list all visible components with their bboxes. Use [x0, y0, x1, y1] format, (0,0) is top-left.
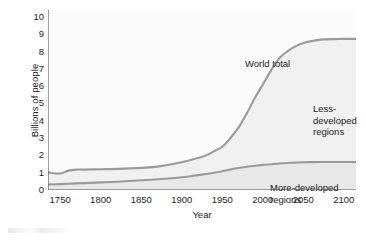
x-tick-label: 2000 — [243, 194, 283, 205]
plot-area: World total Less-developed regions More-… — [48, 10, 356, 190]
y-tick-label: 0 — [26, 185, 44, 194]
population-projection-chart: Billions of people 012345678910 World to… — [0, 0, 366, 240]
x-tick-label: 1850 — [121, 194, 161, 205]
y-tick-label: 7 — [26, 64, 44, 73]
x-axis-tick-labels: 17501800185019001950200020502100 — [48, 194, 356, 208]
x-axis-title: Year — [48, 209, 356, 220]
y-tick-label: 10 — [26, 12, 44, 21]
x-tick-label: 2050 — [283, 194, 323, 205]
x-tick-label: 1900 — [162, 194, 202, 205]
chart-svg — [48, 10, 356, 190]
y-tick-label: 6 — [26, 81, 44, 90]
scan-artifact — [8, 228, 70, 233]
x-tick-label: 1800 — [81, 194, 121, 205]
y-tick-label: 4 — [26, 116, 44, 125]
x-tick-label: 2100 — [324, 194, 364, 205]
y-tick-label: 2 — [26, 150, 44, 159]
x-tick-label: 1750 — [40, 194, 80, 205]
x-tick-label: 1950 — [202, 194, 242, 205]
y-tick-label: 3 — [26, 133, 44, 142]
y-tick-label: 8 — [26, 47, 44, 56]
annotation-world-total: World total — [245, 58, 290, 70]
y-tick-label: 9 — [26, 29, 44, 38]
annotation-less-developed-regions: Less-developed regions — [313, 103, 357, 138]
y-axis-tick-labels: 012345678910 — [26, 10, 44, 190]
y-tick-label: 1 — [26, 168, 44, 177]
y-tick-label: 5 — [26, 98, 44, 107]
